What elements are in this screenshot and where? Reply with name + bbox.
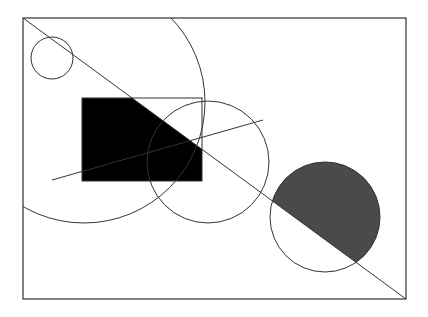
black-rectangle xyxy=(82,98,202,181)
small-circle xyxy=(31,37,73,79)
diagram-canvas xyxy=(0,0,428,317)
diagram-svg xyxy=(0,0,428,317)
diagonal-line xyxy=(23,18,406,299)
gray-half-circle xyxy=(270,162,380,272)
